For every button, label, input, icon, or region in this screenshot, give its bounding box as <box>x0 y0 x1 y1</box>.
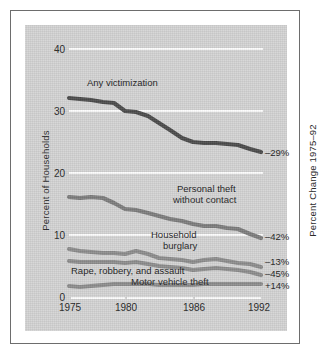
line-any-victimization <box>69 98 261 152</box>
percent-change-rape-robbery-assault: –45% <box>265 268 289 279</box>
figure-frame: Percent of Households Percent Change 197… <box>10 10 300 344</box>
label-rape-robbery-assault: Rape, robbery, and assault <box>71 265 184 276</box>
x-axis-line <box>69 297 263 299</box>
percent-change-personal-theft: –42% <box>265 231 289 242</box>
label-household-burglary-line2: burglary <box>163 240 197 251</box>
x-tick-label-1986: 1986 <box>183 302 205 313</box>
label-motor-vehicle-theft: Motor vehicle theft <box>131 276 209 287</box>
x-tick-label-1975: 1975 <box>59 302 81 313</box>
label-any-victimization: Any victimization <box>87 77 158 88</box>
percent-change-household-burglary: –13% <box>265 256 289 267</box>
plot-area: Percent of Households Percent Change 197… <box>25 25 287 331</box>
percent-change-any-victimization: –29% <box>265 147 289 158</box>
x-tick-label-1992: 1992 <box>248 302 270 313</box>
y-axis-title-right: Percent Change 1975–92 <box>307 106 313 256</box>
x-tick-label-1980: 1980 <box>115 302 137 313</box>
label-personal-theft-line1: Personal theft <box>177 183 236 194</box>
label-household-burglary-line1: Household <box>151 229 196 240</box>
label-personal-theft-line2: without contact <box>173 194 236 205</box>
percent-change-motor-vehicle-theft: +14% <box>265 280 290 291</box>
